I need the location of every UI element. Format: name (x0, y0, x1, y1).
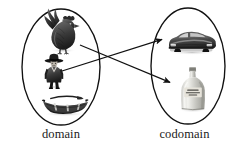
person-in-hat-icon (45, 54, 64, 89)
set-mapping-figure: domain codomain (0, 0, 241, 152)
codomain-label: codomain (128, 127, 241, 142)
domain-label: domain (0, 127, 122, 142)
rowboat-icon (42, 96, 89, 116)
car-icon (168, 32, 216, 55)
arrow-man-to-car (62, 39, 162, 71)
bottle-icon (179, 67, 207, 112)
rooster-icon (44, 9, 79, 55)
